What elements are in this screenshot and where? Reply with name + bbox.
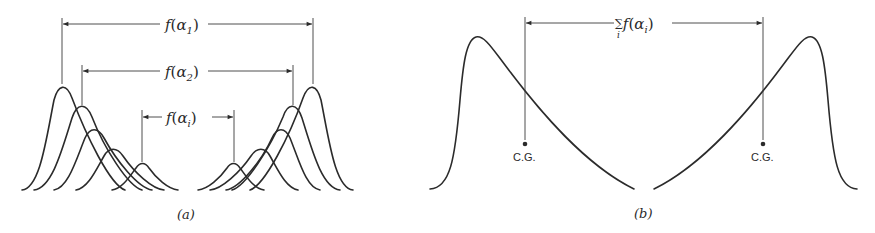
- left-curve-cluster: [22, 87, 178, 190]
- cg-right-label: C.G.: [751, 151, 774, 163]
- label-f-alpha-i: f(αi): [165, 109, 197, 129]
- label-sum-f-alpha-i: ∑f(αi): [615, 15, 653, 35]
- curve-a1-left: [22, 87, 125, 190]
- right-curve-cluster: [198, 87, 353, 190]
- curve-a3-left: [54, 130, 152, 190]
- panel-a: f(α1) f(α2) f(αi) (a): [22, 16, 353, 222]
- summed-curve-right: [654, 37, 857, 189]
- panel-a-label: (a): [177, 207, 195, 222]
- figure: f(α1) f(α2) f(αi) (a): [0, 0, 875, 233]
- panel-b: ∑f(αi) i C.G. C.G. (b): [430, 15, 857, 221]
- curve-a1-right: [250, 87, 353, 190]
- summed-curve-left: [430, 37, 634, 189]
- label-f-alpha-1: f(α1): [164, 16, 199, 36]
- dimension-sum-f-alpha-i: ∑f(αi) i: [525, 15, 763, 140]
- cg-left-label: C.G.: [513, 151, 536, 163]
- curve-a5-left: [112, 164, 178, 191]
- cg-right-marker: C.G.: [751, 142, 774, 163]
- label-f-alpha-2: f(α2): [164, 63, 199, 83]
- dimension-f-alpha-i: f(αi): [142, 109, 234, 162]
- cg-left-marker: C.G.: [513, 142, 536, 163]
- panel-b-label: (b): [634, 206, 652, 221]
- sum-index: i: [617, 30, 620, 40]
- cg-right-dot: [761, 142, 766, 147]
- dimension-f-alpha-2: f(α2): [82, 63, 293, 105]
- cg-left-dot: [523, 142, 528, 147]
